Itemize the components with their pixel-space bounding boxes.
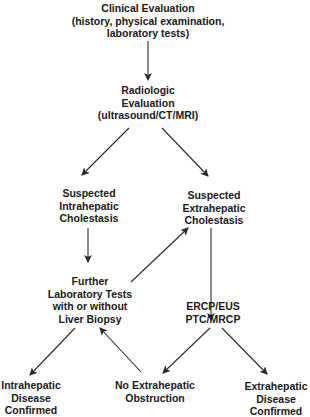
node-line: Suspected [182, 189, 245, 202]
node-ercp-eus-ptc-mrcp: ERCP/EUS PTC/MRCP [186, 300, 241, 325]
node-clinical-evaluation: Clinical Evaluation (history, physical e… [72, 2, 225, 40]
node-line: Suspected [59, 187, 119, 200]
arrow-ercp-to-no-obstruction [163, 328, 210, 373]
arrow-radiologic-to-extrahepatic [162, 128, 208, 176]
node-line: Clinical Evaluation [72, 2, 225, 15]
node-line: Liver Biopsy [48, 313, 132, 326]
node-intrahepatic-confirmed: Intrahepatic Disease Confirmed [1, 379, 61, 417]
node-extrahepatic-confirmed: Extrahepatic Disease Confirmed [244, 380, 307, 417]
flowchart-edges [0, 0, 310, 417]
node-line: Laboratory Tests [48, 288, 132, 301]
node-line: PTC/MRCP [186, 313, 241, 326]
arrow-no-obstruction-to-further-tests [100, 328, 141, 372]
node-line: Confirmed [1, 404, 61, 417]
node-line: Intrahepatic [1, 379, 61, 392]
arrow-further-tests-to-extrahepatic [131, 228, 188, 282]
arrow-radiologic-to-intrahepatic [82, 128, 129, 175]
node-line: Radiologic [98, 84, 198, 97]
node-line: Evaluation [98, 97, 198, 110]
node-suspected-intrahepatic: Suspected Intrahepatic Cholestasis [59, 187, 119, 225]
node-line: Confirmed [244, 405, 307, 417]
node-line: Disease [244, 393, 307, 406]
node-line: No Extrahepatic [115, 379, 195, 392]
node-line: Disease [1, 392, 61, 405]
node-no-extrahepatic-obstruction: No Extrahepatic Obstruction [115, 379, 195, 404]
node-line: Obstruction [115, 392, 195, 405]
node-further-lab-tests: Further Laboratory Tests with or without… [48, 275, 132, 325]
arrow-further-tests-to-intra-confirmed [30, 328, 75, 375]
node-line: ERCP/EUS [186, 300, 241, 313]
flowchart-canvas: Clinical Evaluation (history, physical e… [0, 0, 310, 417]
node-line: Further [48, 275, 132, 288]
node-line: Extrahepatic [244, 380, 307, 393]
arrow-ercp-to-extra-confirmed [222, 328, 267, 374]
node-suspected-extrahepatic: Suspected Extrahepatic Cholestasis [182, 189, 245, 227]
node-line: Extrahepatic [182, 202, 245, 215]
node-line: Cholestasis [59, 212, 119, 225]
node-line: with or without [48, 300, 132, 313]
node-line: laboratory tests) [72, 27, 225, 40]
node-radiologic-evaluation: Radiologic Evaluation (ultrasound/CT/MRI… [98, 84, 198, 122]
node-line: Intrahepatic [59, 200, 119, 213]
node-line: Cholestasis [182, 214, 245, 227]
node-line: (history, physical examination, [72, 15, 225, 28]
node-line: (ultrasound/CT/MRI) [98, 109, 198, 122]
